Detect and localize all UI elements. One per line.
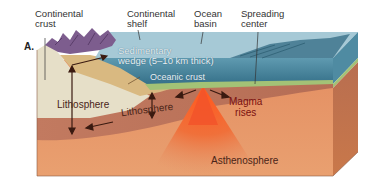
label-line: crust (35, 19, 83, 29)
label-line: center (241, 19, 284, 29)
label-asthenosphere: Asthenosphere (211, 155, 278, 166)
label-oceanic-crust: Oceanic crust (150, 72, 205, 82)
label-line: Magma (229, 96, 262, 107)
label-sedimentary-wedge: Sedimentary wedge (5–10 km thick) (118, 46, 214, 66)
label-continental-crust: Continental crust (35, 9, 83, 29)
label-ocean-basin: Ocean basin (194, 9, 222, 29)
panel-label: A. (24, 41, 34, 52)
label-line: basin (194, 19, 222, 29)
label-line: wedge (5–10 km thick) (118, 56, 214, 66)
label-spreading-center: Spreading center (241, 9, 284, 29)
label-line: shelf (127, 19, 175, 29)
label-continental-shelf: Continental shelf (127, 9, 175, 29)
label-line: rises (229, 107, 262, 118)
label-magma-rises: Magma rises (229, 96, 262, 118)
label-lithosphere-left: Lithosphere (57, 99, 109, 110)
